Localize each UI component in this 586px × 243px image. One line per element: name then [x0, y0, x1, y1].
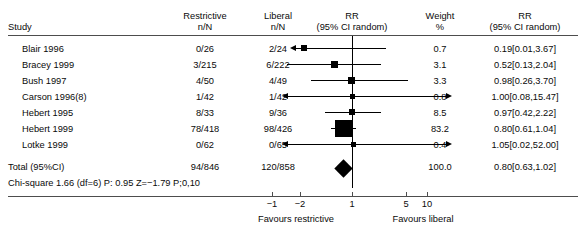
table-row-restrictive: 3/215 [193, 60, 216, 71]
ci-line [331, 128, 356, 129]
table-row-liberal: 9/36 [269, 108, 287, 119]
column-header-liberal-line1: Liberal [264, 11, 292, 22]
table-row-weight: 83.2 [431, 124, 449, 135]
x-axis-tick-label: −1 [267, 199, 278, 209]
ci-line [288, 144, 446, 145]
forest-plot: Restrictive n/N Liberal n/N RR (95% CI r… [0, 0, 586, 243]
ci-line [287, 64, 381, 65]
axis-label-favours-restrictive: Favours restrictive [258, 214, 334, 224]
table-row-restrictive: 1/42 [196, 92, 214, 103]
ci-line [288, 96, 446, 97]
x-axis-tick-label: 1 [349, 199, 354, 209]
total-row-rr: 0.80[0.63,1.02] [494, 162, 556, 173]
table-row-restrictive: 78/418 [191, 124, 219, 135]
x-axis-tick-label: 10 [422, 199, 432, 209]
table-row-rr: 0.98[0.26,3.70] [494, 76, 556, 87]
table-row-restrictive: 0/26 [196, 44, 214, 55]
table-row-study: Bush 1997 [22, 76, 66, 87]
table-row-restrictive: 4/50 [196, 76, 214, 87]
total-row-liberal: 120/858 [261, 162, 295, 173]
table-row-weight: 0.7 [434, 44, 447, 55]
table-row-liberal: 6/222 [266, 60, 289, 71]
ci-line [325, 112, 381, 113]
table-row-study: Bracey 1999 [22, 60, 74, 71]
effect-marker [349, 109, 355, 115]
effect-marker [331, 61, 338, 68]
table-row-liberal: 98/426 [264, 124, 292, 135]
table-row-weight: 0.8 [434, 92, 447, 103]
column-header-plot-line1: RR [345, 11, 358, 22]
column-header-weight-line2: % [436, 22, 444, 33]
table-row-liberal: 2/24 [269, 44, 287, 55]
ci-arrow-left-icon [290, 45, 296, 51]
x-axis-tick [352, 192, 353, 196]
column-header-restrictive-line2: n/N [198, 22, 212, 33]
table-row-study: Carson 1996(8) [22, 92, 87, 103]
summary-diamond [334, 159, 352, 177]
x-axis-tick [427, 192, 428, 196]
column-header-weight-line1: Weight [426, 11, 455, 22]
column-header-rr-line1: RR [518, 11, 531, 22]
ci-arrow-right-icon [446, 141, 452, 147]
plot-canvas [0, 0, 586, 243]
column-header-liberal-line2: n/N [271, 22, 285, 33]
column-header-study: Study [8, 22, 32, 33]
table-row-rr: 0.97[0.42,2.22] [494, 108, 556, 119]
effect-marker [335, 120, 352, 137]
x-axis-tick [272, 192, 273, 196]
table-row-study: Hebert 1995 [22, 108, 73, 119]
table-row-study: Blair 1996 [22, 44, 64, 55]
table-row-weight: 0.4 [434, 140, 447, 151]
total-row-restrictive: 94/846 [191, 162, 219, 173]
table-row-weight: 3.3 [434, 76, 447, 87]
column-header-plot-line2: (95% CI random) [317, 22, 388, 33]
ci-arrow-right-icon [446, 93, 452, 99]
table-row-liberal: 0/65 [269, 140, 287, 151]
total-row-weight: 100.0 [428, 162, 451, 173]
effect-marker [301, 45, 307, 51]
x-axis-tick [406, 192, 407, 196]
table-row-liberal: 4/49 [269, 76, 287, 87]
effect-marker [348, 77, 355, 84]
table-row-liberal: 1/42 [269, 92, 287, 103]
ci-line [311, 80, 408, 81]
x-axis-line [8, 196, 578, 197]
table-row-rr: 0.19[0.01,3.67] [494, 44, 556, 55]
column-header-rr-line2: (95% CI random) [490, 22, 561, 33]
header-divider [8, 35, 578, 36]
column-header-restrictive-line1: Restrictive [183, 11, 226, 22]
heterogeneity-statistics: Chi-square 1.66 (df=6) P: 0.95 Z=−1.79 P… [8, 178, 200, 189]
table-row-restrictive: 0/62 [196, 140, 214, 151]
axis-label-favours-liberal: Favours liberal [393, 214, 454, 224]
table-row-rr: 1.00[0.08,15.47] [491, 92, 558, 103]
table-row-study: Lotke 1999 [22, 140, 68, 151]
x-axis-tick [300, 192, 301, 196]
x-axis-tick-label: 5 [403, 199, 408, 209]
total-row-label: Total (95%CI) [8, 162, 64, 173]
table-row-rr: 0.80[0.61,1.04] [494, 124, 556, 135]
ci-line [296, 48, 386, 49]
table-row-restrictive: 8/33 [196, 108, 214, 119]
null-effect-line [352, 36, 353, 188]
table-row-rr: 0.52[0.13,2.04] [494, 60, 556, 71]
effect-marker [350, 94, 355, 99]
table-row-rr: 1.05[0.02,52.00] [491, 140, 558, 151]
effect-marker [351, 142, 356, 147]
table-row-weight: 8.5 [434, 108, 447, 119]
table-row-study: Hebert 1999 [22, 124, 73, 135]
table-row-weight: 3.1 [434, 60, 447, 71]
x-axis-tick-label: −2 [295, 199, 306, 209]
